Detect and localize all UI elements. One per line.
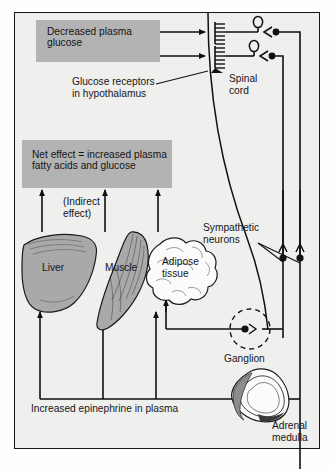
adipose-tissue-label: Adipose tissue	[162, 256, 199, 280]
sympathetic-neurons-label: Sympathetic neurons	[203, 222, 259, 246]
spinal-cord-label: Spinal cord	[229, 73, 257, 97]
diagram-vectors	[0, 0, 335, 469]
glucose-receptors-label: Glucose receptors in hypothalamus	[72, 76, 155, 100]
decreased-plasma-glucose-box: Decreased plasma glucose	[36, 20, 160, 62]
adrenal-medulla-shape	[232, 369, 289, 422]
muscle-shape	[97, 232, 148, 330]
decreased-plasma-glucose-text: Decreased plasma glucose	[47, 26, 160, 48]
figure-canvas: Decreased plasma glucose Net effect = in…	[0, 0, 335, 469]
liver-label: Liver	[42, 262, 64, 274]
muscle-label: Muscle	[105, 262, 137, 274]
indirect-effect-label: (Indirect effect)	[63, 196, 100, 220]
net-effect-box: Net effect = increased plasma fatty acid…	[22, 140, 172, 188]
ganglion-label: Ganglion	[224, 353, 265, 365]
increased-epinephrine-label: Increased epinephrine in plasma	[31, 403, 178, 415]
adrenal-medulla-label: Adrenal medulla	[272, 420, 308, 444]
net-effect-text: Net effect = increased plasma fatty acid…	[32, 149, 172, 171]
